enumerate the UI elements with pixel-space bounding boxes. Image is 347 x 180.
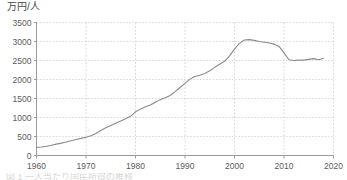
x-tick-label: 1970 xyxy=(77,161,96,171)
y-tick-label: 500 xyxy=(17,132,31,142)
tick-marks-group xyxy=(34,23,334,159)
tick-labels-group: 0500100015002000250030003500196019701980… xyxy=(13,18,344,171)
x-tick-label: 2020 xyxy=(324,161,343,171)
gridlines-group xyxy=(37,23,334,156)
y-tick-label: 3500 xyxy=(13,18,32,28)
figure-caption-cutoff: 図 1 一人当たり国民所得の推移 xyxy=(6,173,196,180)
x-tick-label: 1960 xyxy=(27,161,46,171)
y-tick-label: 1000 xyxy=(13,113,32,123)
line-chart-plot: 0500100015002000250030003500196019701980… xyxy=(0,0,347,180)
figure-caption-text: 図 1 一人当たり国民所得の推移 xyxy=(6,173,196,180)
y-tick-label: 3000 xyxy=(13,37,32,47)
y-tick-label: 2500 xyxy=(13,56,32,66)
x-tick-label: 2000 xyxy=(225,161,244,171)
x-tick-label: 1980 xyxy=(126,161,145,171)
y-tick-label: 1500 xyxy=(13,94,32,104)
data-line-series xyxy=(37,40,324,148)
y-tick-label: 0 xyxy=(27,151,32,161)
x-tick-label: 1990 xyxy=(176,161,195,171)
data-series-group xyxy=(37,40,324,148)
x-tick-label: 2010 xyxy=(275,161,294,171)
y-tick-label: 2000 xyxy=(13,75,32,85)
chart-figure: 万円/人 05001000150020002500300035001960197… xyxy=(0,0,347,180)
